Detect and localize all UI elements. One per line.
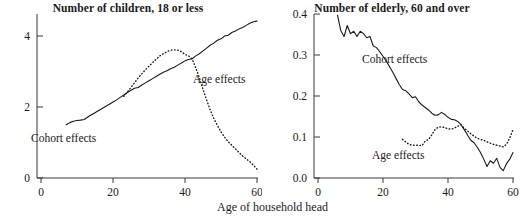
series-age-effects-elderly: [403, 125, 514, 147]
x-tick-label: 0: [38, 186, 44, 198]
plot-children: 0 2 4 0 20 40 60 Cohort effects Age effe…: [0, 0, 262, 200]
annotation-age-effects-elderly: Age effects: [372, 149, 425, 162]
y-tick-label: 4: [24, 30, 30, 42]
x-tick-label: 20: [107, 186, 119, 198]
x-tick-label: 60: [507, 186, 519, 198]
series-age-effects-children: [124, 50, 257, 169]
x-axis-title-text: Age of household head: [217, 200, 328, 214]
y-ticks-elderly: 0.0 0.1 0.2 0.3 0.4: [293, 8, 320, 184]
series-cohort-effects-elderly: [338, 15, 514, 170]
chart-panel-children: Number of children, 18 or less 0 2 4 0: [0, 0, 262, 200]
annotation-cohort-effects-children: Cohort effects: [31, 132, 97, 144]
y-ticks-children: 0 2 4: [24, 30, 43, 184]
y-tick-label: 2: [24, 101, 30, 113]
annotation-cohort-effects-elderly: Cohort effects: [362, 53, 428, 65]
y-tick-label: 0.0: [293, 172, 308, 184]
plot-elderly: 0.0 0.1 0.2 0.3 0.4 0 20 40 60 Coho: [262, 0, 524, 200]
y-tick-label: 0.4: [293, 8, 308, 20]
y-tick-label: 0.2: [293, 90, 308, 102]
x-tick-label: 0: [315, 186, 321, 198]
x-ticks-elderly: 0 20 40 60: [315, 178, 519, 198]
x-tick-label: 40: [442, 186, 454, 198]
x-tick-label: 60: [251, 186, 262, 198]
x-ticks-children: 0 20 40 60: [38, 178, 262, 198]
annotation-age-effects-children: Age effects: [193, 73, 246, 86]
x-tick-label: 40: [179, 186, 191, 198]
y-tick-label: 0.3: [293, 49, 308, 61]
x-tick-label: 20: [377, 186, 389, 198]
y-tick-label: 0: [24, 172, 30, 184]
figure-container: Number of children, 18 or less 0 2 4 0: [0, 0, 525, 223]
chart-panel-elderly: Number of elderly, 60 and over 0.0 0.1 0…: [262, 0, 524, 200]
y-tick-label: 0.1: [293, 131, 308, 143]
x-axis-title: Age of household head: [0, 200, 525, 215]
